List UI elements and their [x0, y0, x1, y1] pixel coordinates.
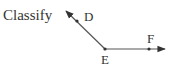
angle-diagram: D E F	[0, 0, 170, 71]
label-e: E	[101, 52, 109, 67]
point-f	[147, 47, 150, 50]
point-d	[75, 19, 78, 22]
point-e	[103, 47, 106, 50]
label-d: D	[84, 9, 93, 24]
label-f: F	[147, 31, 154, 46]
